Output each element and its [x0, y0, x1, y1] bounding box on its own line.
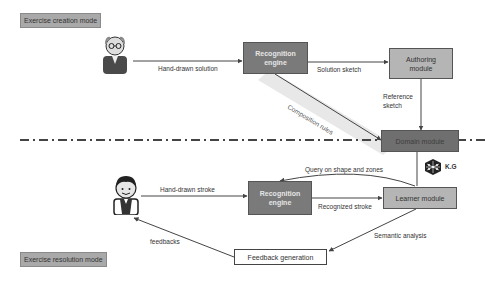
kg-label: K.G — [445, 163, 457, 171]
box-label: engine — [269, 198, 292, 207]
edge-label-recognized-stroke: Recognized stroke — [318, 203, 372, 211]
recognition-engine-bottom-box: Recognition engine — [248, 181, 312, 215]
box-label: engine — [264, 58, 287, 67]
box-label: Recognition — [260, 189, 300, 198]
edge-label-hand-drawn-stroke: Hand-drawn stroke — [160, 186, 215, 194]
edge-label-reference-sketch-2: sketch — [383, 102, 402, 110]
edge-label-reference-sketch-1: Reference — [383, 93, 413, 101]
edge-label-feedbacks: feedbacks — [150, 238, 180, 246]
box-label: Authoring — [406, 55, 436, 64]
box-label: Learner module — [395, 194, 444, 203]
domain-module-box: Domain module — [381, 130, 459, 152]
box-label: module — [410, 64, 433, 73]
exercise-creation-mode-label: Exercise creation mode — [20, 13, 101, 28]
exercise-resolution-mode-label: Exercise resolution mode — [20, 252, 107, 267]
learner-icon — [110, 173, 142, 215]
recognition-engine-top-box: Recognition engine — [243, 42, 308, 74]
composition-rules-band — [258, 70, 395, 155]
feedback-generation-box: Feedback generation — [234, 249, 327, 265]
box-label: Recognition — [255, 49, 295, 58]
teacher-icon — [100, 32, 130, 74]
edge-label-solution-sketch: Solution sketch — [317, 66, 361, 74]
edge-label-hand-drawn-solution: Hand-drawn solution — [158, 65, 218, 73]
box-label: Feedback generation — [248, 253, 314, 262]
learner-module-box: Learner module — [383, 187, 457, 209]
box-label: Domain module — [395, 137, 444, 146]
knowledge-graph-icon — [423, 158, 443, 176]
edge-label-semantic-analysis: Semantic analysis — [374, 232, 426, 240]
edge-label-query: Query on shape and zones — [305, 166, 383, 174]
authoring-module-box: Authoring module — [389, 48, 453, 79]
